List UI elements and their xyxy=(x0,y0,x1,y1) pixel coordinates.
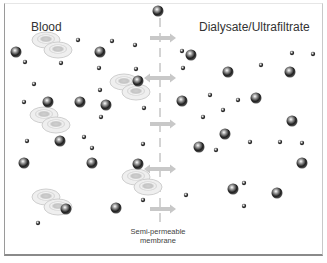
small-molecule xyxy=(32,82,36,86)
large-molecule xyxy=(220,129,231,140)
large-molecule xyxy=(87,158,98,169)
large-molecule xyxy=(43,97,54,108)
red-blood-cell xyxy=(42,117,70,133)
large-molecule xyxy=(11,47,22,58)
small-molecule xyxy=(300,141,304,145)
small-molecule xyxy=(180,49,184,53)
small-molecule xyxy=(242,181,246,185)
small-molecule xyxy=(142,106,146,110)
arrow-right xyxy=(150,120,176,129)
small-molecule xyxy=(141,142,145,146)
large-molecule xyxy=(177,96,188,107)
small-molecule xyxy=(214,148,218,152)
small-molecule xyxy=(133,43,137,47)
large-molecule xyxy=(153,6,164,17)
small-molecule xyxy=(248,140,252,144)
small-molecule xyxy=(25,139,29,143)
small-molecule xyxy=(184,193,188,197)
large-molecule xyxy=(186,50,197,61)
small-molecule xyxy=(221,108,225,112)
large-molecule xyxy=(287,116,298,127)
small-molecule xyxy=(290,51,294,55)
diagram-canvas xyxy=(0,0,327,263)
large-molecule xyxy=(285,67,296,78)
large-molecule xyxy=(55,136,66,147)
large-molecule xyxy=(95,47,106,58)
large-molecule xyxy=(75,97,86,108)
small-molecule xyxy=(201,115,205,119)
large-molecule xyxy=(272,188,283,199)
red-blood-cell xyxy=(44,42,72,58)
small-molecule xyxy=(259,63,263,67)
large-molecule xyxy=(133,159,144,170)
small-molecule xyxy=(134,67,138,71)
small-molecule xyxy=(36,221,40,225)
large-molecule xyxy=(223,67,234,78)
small-molecule xyxy=(236,98,240,102)
small-molecule xyxy=(311,52,315,56)
small-molecule xyxy=(23,60,27,64)
small-molecule xyxy=(76,38,80,42)
small-molecule xyxy=(59,61,63,65)
large-molecule xyxy=(228,184,239,195)
large-molecule xyxy=(194,142,205,153)
small-molecule xyxy=(97,66,101,70)
small-molecule xyxy=(110,39,114,43)
large-molecule xyxy=(61,204,72,215)
small-molecule xyxy=(22,100,26,104)
large-molecule xyxy=(133,76,144,87)
small-molecule xyxy=(98,88,102,92)
large-molecule xyxy=(297,158,308,169)
red-blood-cells xyxy=(30,32,162,215)
arrow-right xyxy=(150,205,176,214)
small-molecule xyxy=(90,146,94,150)
large-molecule xyxy=(19,158,30,169)
small-molecule xyxy=(208,93,212,97)
small-molecule xyxy=(278,140,282,144)
small-molecule xyxy=(141,198,145,202)
red-blood-cell xyxy=(134,179,162,195)
small-molecule xyxy=(82,135,86,139)
arrow-right xyxy=(150,34,176,43)
small-molecule xyxy=(99,115,103,119)
large-molecule xyxy=(251,93,262,104)
large-molecule xyxy=(111,203,122,214)
small-molecule xyxy=(181,66,185,70)
small-molecule xyxy=(242,204,246,208)
red-blood-cell xyxy=(122,84,150,100)
large-molecule xyxy=(101,100,112,111)
